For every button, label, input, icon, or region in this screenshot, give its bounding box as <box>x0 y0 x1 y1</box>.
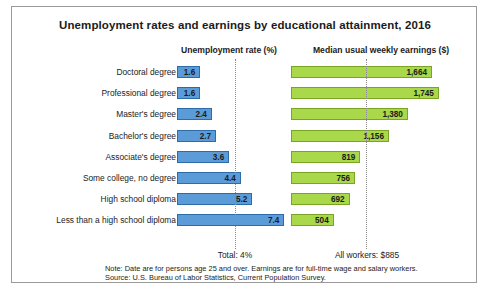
bar-median-earnings: 1,380 <box>291 108 408 120</box>
bar-value-unemployment: 7.4 <box>268 215 279 227</box>
row-label: Master's degree <box>18 107 176 121</box>
bar-median-earnings: 504 <box>291 214 334 226</box>
bar-median-earnings: 1,745 <box>291 87 439 99</box>
bar-value-unemployment: 1.6 <box>184 67 195 79</box>
table-row: Master's degree2.41,380 <box>12 107 478 121</box>
bar-value-earnings: 756 <box>336 173 350 185</box>
table-row: Bachelor's degree2.71,156 <box>12 129 478 143</box>
reference-line-earnings-all-workers <box>366 59 367 249</box>
bar-unemployment-rate: 1.6 <box>177 66 200 78</box>
table-row: Associate's degree3.6819 <box>12 150 478 164</box>
bar-unemployment-rate: 1.6 <box>177 87 200 99</box>
bar-median-earnings: 1,664 <box>291 66 432 78</box>
bar-median-earnings: 692 <box>291 193 350 205</box>
reference-line-unemployment-total <box>235 59 236 249</box>
table-row: Less than a high school diploma7.4504 <box>12 213 478 227</box>
total-earnings-label: All workers: $885 <box>312 250 422 260</box>
row-label: High school diploma <box>18 192 176 206</box>
table-row: Doctoral degree1.61,664 <box>12 65 478 79</box>
table-row: High school diploma5.2692 <box>12 192 478 206</box>
plot-area: Doctoral degree1.61,664Professional degr… <box>12 7 478 284</box>
table-row: Some college, no degree4.4756 <box>12 171 478 185</box>
bar-unemployment-rate: 2.4 <box>177 108 212 120</box>
bar-unemployment-rate: 4.4 <box>177 172 241 184</box>
bar-median-earnings: 1,156 <box>291 130 389 142</box>
bar-value-unemployment: 3.6 <box>213 152 224 164</box>
bar-value-earnings: 504 <box>315 215 329 227</box>
bar-unemployment-rate: 5.2 <box>177 193 252 205</box>
bar-value-earnings: 1,745 <box>413 88 434 100</box>
row-label: Doctoral degree <box>18 65 176 79</box>
bar-unemployment-rate: 3.6 <box>177 151 229 163</box>
bar-value-earnings: 1,380 <box>382 109 403 121</box>
row-label: Less than a high school diploma <box>18 213 176 227</box>
bar-value-unemployment: 2.4 <box>195 109 206 121</box>
bar-value-earnings: 1,664 <box>407 67 428 79</box>
chart-source: Source: U.S. Bureau of Labor Statistics,… <box>105 273 326 282</box>
bar-value-earnings: 692 <box>331 194 345 206</box>
row-label: Bachelor's degree <box>18 129 176 143</box>
bar-median-earnings: 819 <box>291 151 360 163</box>
total-unemployment-label: Total: 4% <box>180 250 290 260</box>
table-row: Professional degree1.61,745 <box>12 86 478 100</box>
chart-frame: Unemployment rates and earnings by educa… <box>11 6 477 283</box>
bar-value-unemployment: 5.2 <box>236 194 247 206</box>
row-label: Associate's degree <box>18 150 176 164</box>
bar-median-earnings: 756 <box>291 172 355 184</box>
row-label: Some college, no degree <box>18 171 176 185</box>
bar-value-earnings: 819 <box>342 152 356 164</box>
bar-value-unemployment: 1.6 <box>184 88 195 100</box>
row-label: Professional degree <box>18 86 176 100</box>
bar-unemployment-rate: 7.4 <box>177 214 284 226</box>
chart-note: Note: Date are for persons age 25 and ov… <box>105 264 418 273</box>
bar-value-unemployment: 2.7 <box>200 131 211 143</box>
bar-unemployment-rate: 2.7 <box>177 130 216 142</box>
